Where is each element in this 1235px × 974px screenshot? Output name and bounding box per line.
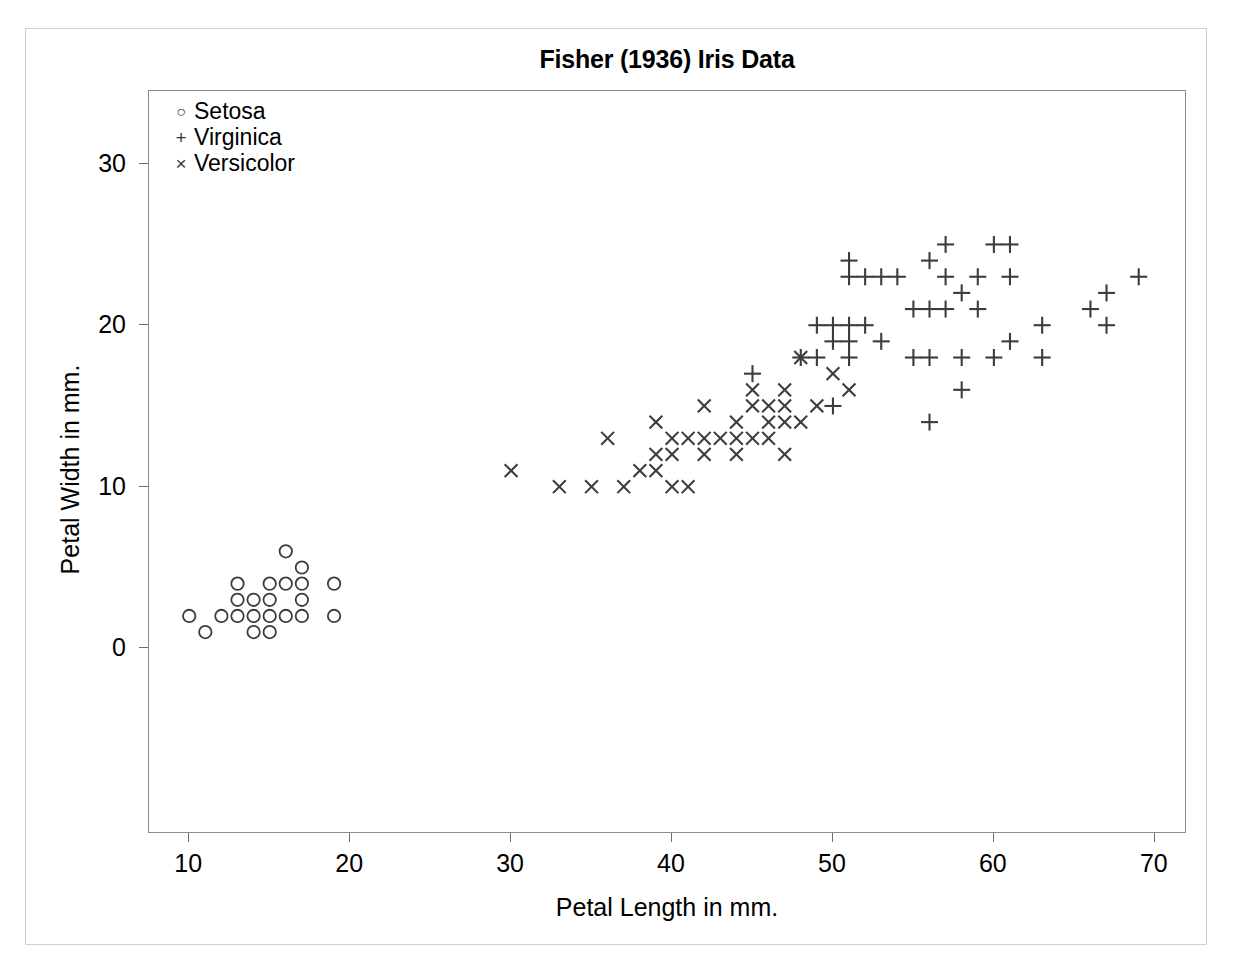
circle-marker-icon: ○ xyxy=(168,102,194,121)
data-point-virginica xyxy=(841,268,858,285)
data-point-versicolor xyxy=(650,416,663,429)
cross-marker-icon: × xyxy=(168,154,194,173)
data-point-versicolor xyxy=(698,400,711,413)
legend: ○Setosa+Virginica×Versicolor xyxy=(162,96,305,180)
data-point-virginica xyxy=(873,333,890,350)
data-point-versicolor xyxy=(666,480,679,493)
data-point-virginica xyxy=(841,252,858,269)
data-point-virginica xyxy=(905,349,922,366)
data-point-virginica xyxy=(1001,236,1018,253)
data-point-versicolor xyxy=(730,416,743,429)
data-point-versicolor xyxy=(666,448,679,461)
x-tick-label: 50 xyxy=(818,849,846,878)
x-tick-label: 10 xyxy=(174,849,202,878)
data-point-virginica xyxy=(921,349,938,366)
x-tick-label: 40 xyxy=(657,849,685,878)
data-point-versicolor xyxy=(698,432,711,445)
data-point-versicolor xyxy=(778,448,791,461)
data-point-virginica xyxy=(905,301,922,318)
y-tick-mark xyxy=(139,647,148,648)
data-point-virginica xyxy=(857,268,874,285)
data-point-virginica xyxy=(1098,317,1115,334)
data-point-virginica xyxy=(953,381,970,398)
legend-item-virginica: +Virginica xyxy=(168,124,295,150)
data-point-virginica xyxy=(921,301,938,318)
data-point-setosa xyxy=(263,594,275,606)
data-point-virginica xyxy=(1001,268,1018,285)
data-point-versicolor xyxy=(762,400,775,413)
data-point-virginica xyxy=(1034,349,1051,366)
data-point-versicolor xyxy=(585,480,598,493)
data-point-setosa xyxy=(296,610,308,622)
data-point-virginica xyxy=(808,349,825,366)
data-point-virginica xyxy=(1034,317,1051,334)
data-point-virginica xyxy=(921,414,938,431)
data-point-virginica xyxy=(841,333,858,350)
data-point-versicolor xyxy=(650,448,663,461)
data-point-versicolor xyxy=(762,432,775,445)
x-tick-mark xyxy=(349,833,350,842)
data-point-virginica xyxy=(824,333,841,350)
y-tick-mark xyxy=(139,486,148,487)
data-point-setosa xyxy=(296,594,308,606)
data-point-versicolor xyxy=(505,464,518,477)
data-point-setosa xyxy=(280,545,292,557)
data-point-setosa xyxy=(328,610,340,622)
data-point-versicolor xyxy=(794,416,807,429)
data-point-virginica xyxy=(937,301,954,318)
scatter-plot-canvas xyxy=(149,91,1185,832)
x-tick-mark xyxy=(832,833,833,842)
x-tick-label: 20 xyxy=(335,849,363,878)
data-point-versicolor xyxy=(778,400,791,413)
data-point-versicolor xyxy=(633,464,646,477)
x-tick-label: 30 xyxy=(496,849,524,878)
data-point-setosa xyxy=(263,626,275,638)
data-point-setosa xyxy=(215,610,227,622)
data-point-versicolor xyxy=(843,383,856,396)
data-point-versicolor xyxy=(714,432,727,445)
legend-item-setosa: ○Setosa xyxy=(168,98,295,124)
y-axis-title: Petal Width in mm. xyxy=(56,100,85,840)
data-point-virginica xyxy=(1130,268,1147,285)
data-point-virginica xyxy=(857,317,874,334)
data-point-virginica xyxy=(937,236,954,253)
scan-header-text xyxy=(14,0,1114,5)
data-point-versicolor xyxy=(553,480,566,493)
figure-page: Fisher (1936) Iris Data ○Setosa+Virginic… xyxy=(0,0,1235,974)
plot-area xyxy=(148,90,1186,833)
data-point-setosa xyxy=(263,610,275,622)
data-point-virginica xyxy=(953,284,970,301)
data-point-virginica xyxy=(985,236,1002,253)
data-point-setosa xyxy=(296,561,308,573)
data-point-virginica xyxy=(841,349,858,366)
data-point-virginica xyxy=(953,349,970,366)
data-point-virginica xyxy=(824,317,841,334)
x-tick-mark xyxy=(188,833,189,842)
data-point-setosa xyxy=(247,610,259,622)
data-point-versicolor xyxy=(827,367,840,380)
data-point-virginica xyxy=(873,268,890,285)
data-point-virginica xyxy=(1098,284,1115,301)
data-point-setosa xyxy=(247,594,259,606)
data-point-virginica xyxy=(808,317,825,334)
data-point-versicolor xyxy=(682,432,695,445)
data-point-setosa xyxy=(199,626,211,638)
x-tick-mark xyxy=(510,833,511,842)
data-point-versicolor xyxy=(762,416,775,429)
chart-title: Fisher (1936) Iris Data xyxy=(148,45,1186,74)
legend-item-label: Setosa xyxy=(194,100,266,123)
data-point-versicolor xyxy=(617,480,630,493)
data-point-versicolor xyxy=(778,383,791,396)
data-point-versicolor xyxy=(601,432,614,445)
y-tick-mark xyxy=(139,324,148,325)
x-tick-mark xyxy=(993,833,994,842)
data-point-setosa xyxy=(183,610,195,622)
legend-item-versicolor: ×Versicolor xyxy=(168,150,295,176)
data-point-versicolor xyxy=(746,383,759,396)
data-point-virginica xyxy=(889,268,906,285)
y-tick-mark xyxy=(139,163,148,164)
data-point-virginica xyxy=(1082,301,1099,318)
data-point-versicolor xyxy=(746,432,759,445)
data-point-versicolor xyxy=(698,448,711,461)
legend-item-label: Virginica xyxy=(194,126,282,149)
